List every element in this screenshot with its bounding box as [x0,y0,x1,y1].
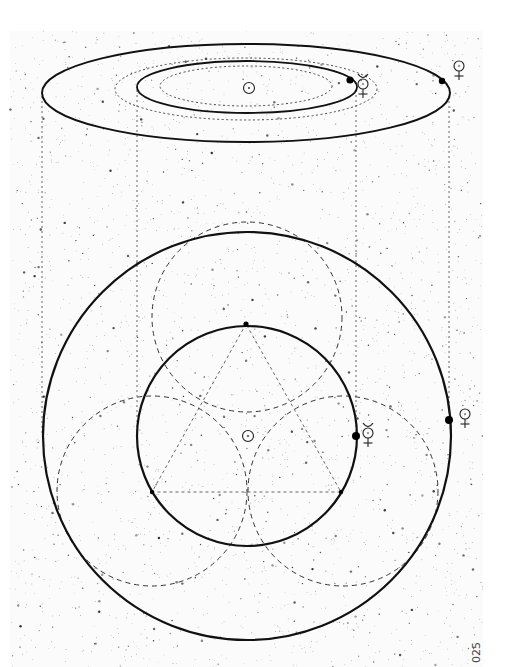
star [152,126,153,127]
star [214,549,215,550]
star [82,636,83,637]
star [451,637,452,638]
star [358,347,359,348]
star [477,325,478,326]
star [126,618,127,619]
star [401,406,402,407]
star [275,647,276,648]
star [89,115,90,116]
star [129,278,130,279]
star [246,244,247,245]
star [288,619,289,620]
star [278,385,279,386]
star [440,642,441,643]
star [280,628,281,629]
star [54,477,55,478]
star [249,57,250,58]
star [318,320,319,321]
triangle-vertex-dot [150,490,154,494]
star [326,486,327,487]
star [273,457,274,458]
star [65,448,66,449]
star [74,577,75,578]
star [22,203,23,204]
star [455,329,456,330]
star [218,405,219,406]
star [198,106,199,107]
star [128,397,129,398]
star [320,552,321,553]
star [175,581,176,582]
construction-circle-top [152,222,342,412]
star [14,118,15,119]
star [400,640,401,641]
star [454,139,455,140]
star [277,117,279,119]
star [34,593,35,594]
star [281,316,282,317]
star [22,45,23,46]
star [257,271,258,272]
star [431,69,432,70]
star [380,499,381,500]
star [75,316,76,317]
star [158,290,159,291]
star [446,344,447,345]
star [311,118,312,119]
star [455,342,456,343]
star [296,665,297,666]
star [220,434,221,435]
star [438,71,439,72]
star [247,76,248,77]
star [133,447,134,448]
star [183,201,184,202]
star [267,93,268,94]
star [153,640,154,641]
star [321,459,322,460]
star [432,80,433,81]
star [471,509,472,510]
star [287,457,288,458]
star [331,488,332,489]
star [456,330,457,331]
star [111,650,112,651]
star [433,222,434,223]
star [353,630,354,631]
star [458,481,459,482]
star [94,626,95,627]
star [116,407,117,408]
star [391,465,392,466]
star [121,322,122,323]
star [365,544,366,545]
star [254,596,255,597]
star [253,572,254,573]
star [158,537,160,539]
star [11,370,12,371]
star [359,412,360,413]
star [182,99,183,100]
star [329,485,330,486]
star [264,215,265,216]
star [361,402,362,403]
star [170,52,171,53]
star [166,358,167,359]
star [177,645,178,646]
star [191,170,192,171]
star [391,230,392,231]
star [392,549,393,550]
star [113,578,114,579]
star [466,245,467,246]
star [345,280,346,281]
star [288,186,289,187]
star [140,386,141,387]
star [153,87,154,88]
star [225,51,226,52]
star [101,494,102,495]
star [347,627,348,628]
star [43,40,44,41]
star [472,568,474,570]
star [162,508,163,509]
star [29,291,30,292]
star [265,408,266,409]
star [482,589,483,590]
